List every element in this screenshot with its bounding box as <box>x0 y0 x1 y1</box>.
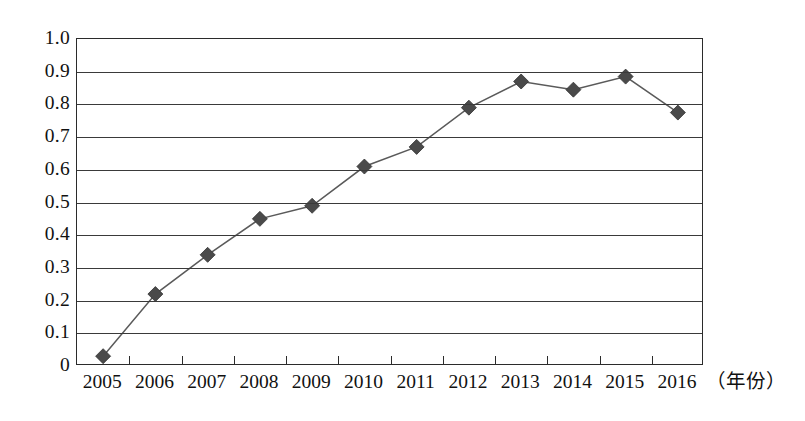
gridline <box>77 170 702 171</box>
y-tick-label: 1.0 <box>6 28 70 48</box>
y-tick-label: 0.6 <box>6 159 70 179</box>
series-markers <box>96 69 686 364</box>
data-point-marker <box>200 247 215 262</box>
series-line-path <box>103 77 678 357</box>
gridline <box>77 137 702 138</box>
y-tick-label: 0.8 <box>6 94 70 114</box>
x-tick <box>547 356 548 364</box>
data-point-marker <box>252 211 267 226</box>
gridline <box>77 333 702 334</box>
x-tick-label: 2016 <box>637 372 717 392</box>
x-tick <box>495 356 496 364</box>
x-tick <box>652 356 653 364</box>
data-point-marker <box>357 159 372 174</box>
y-tick-label: 0.4 <box>6 224 70 244</box>
x-axis-title: （年份） <box>706 372 786 392</box>
y-tick-label: 0 <box>6 355 70 375</box>
data-point-marker <box>514 74 529 89</box>
gridline <box>77 301 702 302</box>
y-axis: 1.00.90.80.70.60.50.40.30.20.10 <box>0 0 70 421</box>
plot-area <box>76 38 703 365</box>
y-tick-label: 0.3 <box>6 257 70 277</box>
chart-page: 1.00.90.80.70.60.50.40.30.20.10 20052006… <box>0 0 805 421</box>
x-tick <box>600 356 601 364</box>
data-point-marker <box>461 100 476 115</box>
y-tick-label: 0.7 <box>6 126 70 146</box>
gridline <box>77 104 702 105</box>
data-point-marker <box>566 82 581 97</box>
x-tick <box>182 356 183 364</box>
x-tick <box>338 356 339 364</box>
y-tick-label: 0.9 <box>6 61 70 81</box>
x-tick <box>443 356 444 364</box>
y-tick-label: 0.1 <box>6 323 70 343</box>
data-point-marker <box>670 105 685 120</box>
gridline <box>77 268 702 269</box>
x-tick <box>129 356 130 364</box>
data-point-marker <box>305 198 320 213</box>
y-tick-label: 0.2 <box>6 290 70 310</box>
gridline <box>77 235 702 236</box>
x-tick <box>234 356 235 364</box>
gridline <box>77 72 702 73</box>
y-tick-label: 0.5 <box>6 192 70 212</box>
x-tick <box>286 356 287 364</box>
gridline <box>77 203 702 204</box>
data-point-marker <box>409 139 424 154</box>
x-tick <box>391 356 392 364</box>
